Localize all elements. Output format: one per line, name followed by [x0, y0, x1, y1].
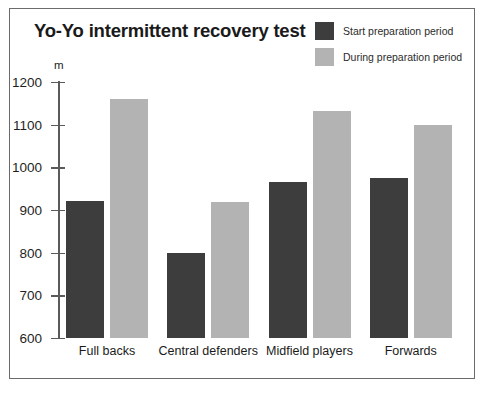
bar [110, 99, 148, 338]
x-axis-category-label: Central defenders [159, 344, 258, 358]
legend-swatch-start-preparation-period [315, 22, 334, 40]
y-axis-tick-label: 600 [19, 331, 42, 346]
y-axis-tick-label: 1100 [13, 117, 42, 132]
bar [167, 253, 205, 338]
legend-item-during-preparation-period: During preparation period [315, 48, 462, 66]
bar [414, 125, 452, 338]
x-axis-category-label: Full backs [79, 344, 135, 358]
bar [370, 178, 408, 338]
y-axis-unit-label: m [54, 59, 64, 71]
legend-item-start-preparation-period: Start preparation period [315, 22, 462, 40]
y-axis-tick-label: 1000 [12, 160, 42, 175]
bar [313, 111, 351, 338]
y-axis-tick-label: 1200 [12, 75, 42, 90]
bar [66, 201, 104, 338]
plot-area: 120011001000900800700600 Full backsCentr… [58, 82, 463, 338]
bar [269, 182, 307, 338]
x-axis-category-label: Forwards [385, 344, 437, 358]
x-axis-category-label: Midfield players [266, 344, 353, 358]
chart-title: Yo-Yo intermittent recovery test [34, 20, 306, 42]
chart-legend: Start preparation period During preparat… [315, 22, 462, 74]
legend-label-start-preparation-period: Start preparation period [343, 25, 453, 37]
y-axis-tick: 600 [51, 338, 65, 339]
bar [211, 202, 249, 338]
bar-series-group [58, 82, 463, 338]
legend-swatch-during-preparation-period [315, 48, 334, 66]
y-axis-tick-label: 800 [19, 245, 42, 260]
legend-label-during-preparation-period: During preparation period [343, 51, 462, 63]
chart-figure: Yo-Yo intermittent recovery test Start p… [0, 0, 484, 395]
y-axis-tick-label: 700 [19, 288, 42, 303]
y-axis-tick-label: 900 [19, 203, 42, 218]
